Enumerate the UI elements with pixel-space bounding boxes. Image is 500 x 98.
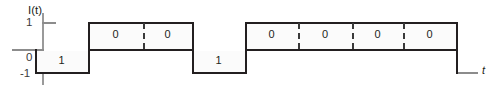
x-axis-label: t [482, 65, 485, 76]
y-tick-label-1: 1 [26, 17, 32, 29]
bit-label-2: 0 [143, 29, 192, 40]
bit-label-1: 0 [88, 29, 143, 40]
y-axis-title-text: I(t) [28, 4, 42, 16]
edge-falling-cell-2-3 [192, 22, 194, 74]
bit-label-6: 0 [352, 29, 403, 40]
level-high-cell-1-2 [88, 22, 194, 24]
zero-line-cell-1-2 [88, 49, 194, 51]
t-axis-baseline-right [456, 72, 478, 74]
y-axis-title: I(t) [28, 5, 42, 17]
bit-label-4: 0 [245, 29, 298, 40]
y-tick-label-0: 0 [26, 52, 32, 64]
bit-label-7: 0 [403, 29, 456, 40]
edge-end-cell-7 [456, 22, 458, 74]
bit-label-3: 1 [192, 55, 245, 66]
y-tick-label-neg1: -1 [20, 68, 30, 80]
zero-line-cell-4-7 [245, 49, 458, 51]
bit-label-0: 1 [35, 55, 88, 66]
bit-label-5: 0 [298, 29, 352, 40]
waveform-figure: I(t) 1 0 -1 t 1 0 0 1 0 [0, 0, 500, 98]
level-low-cell-3 [192, 72, 247, 74]
y-tick-mark-1 [42, 22, 56, 24]
level-low-cell-0 [35, 72, 90, 74]
